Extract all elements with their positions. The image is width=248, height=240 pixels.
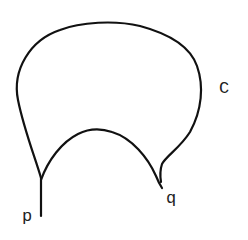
curve-label-c: C (219, 80, 229, 97)
curve-diagram (0, 0, 248, 240)
curve-c-outer-arc (17, 23, 201, 182)
point-label-p: p (22, 208, 32, 225)
curve-c-inner-arch (41, 130, 162, 188)
point-label-q: q (166, 190, 176, 207)
